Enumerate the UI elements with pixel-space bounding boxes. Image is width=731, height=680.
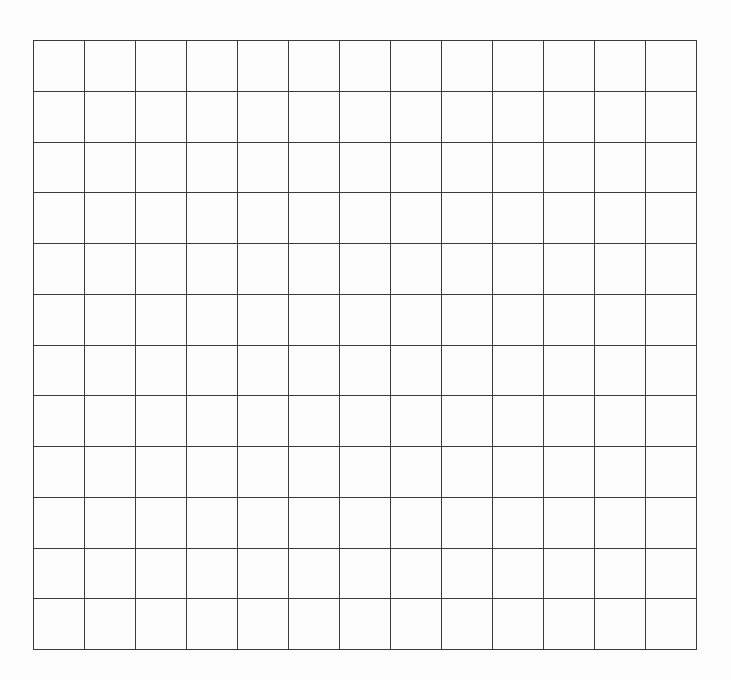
grid-cell <box>340 142 391 193</box>
grid-cell <box>187 193 238 244</box>
grid-cell <box>544 244 595 295</box>
grid-cell <box>391 396 442 447</box>
grid-cell <box>340 396 391 447</box>
grid-cell <box>493 447 544 498</box>
grid-cell <box>493 142 544 193</box>
grid-cell <box>289 193 340 244</box>
grid-cell <box>136 244 187 295</box>
grid-cell <box>442 599 493 650</box>
grid-body <box>34 41 697 650</box>
grid-cell <box>34 345 85 396</box>
grid-cell <box>442 193 493 244</box>
grid-cell <box>646 497 697 548</box>
grid-cell <box>289 142 340 193</box>
grid-cell <box>136 497 187 548</box>
grid-cell <box>493 497 544 548</box>
grid-cell <box>646 599 697 650</box>
grid-cell <box>442 91 493 142</box>
grid-cell <box>493 396 544 447</box>
grid-cell <box>289 599 340 650</box>
grid-cell <box>136 345 187 396</box>
grid-cell <box>544 294 595 345</box>
grid-row <box>34 396 697 447</box>
grid-cell <box>34 599 85 650</box>
grid-cell <box>289 548 340 599</box>
grid-cell <box>595 447 646 498</box>
grid-cell <box>136 447 187 498</box>
grid-cell <box>238 345 289 396</box>
grid-cell <box>493 294 544 345</box>
grid-cell <box>391 345 442 396</box>
grid-cell <box>595 599 646 650</box>
grid-cell <box>187 497 238 548</box>
grid-cell <box>34 91 85 142</box>
grid-cell <box>289 91 340 142</box>
grid-cell <box>340 548 391 599</box>
grid-cell <box>289 447 340 498</box>
grid-cell <box>238 599 289 650</box>
grid-cell <box>595 497 646 548</box>
grid-cell <box>544 447 595 498</box>
grid-cell <box>34 41 85 92</box>
grid-cell <box>391 548 442 599</box>
grid-cell <box>187 142 238 193</box>
grid-cell <box>340 244 391 295</box>
grid-cell <box>187 91 238 142</box>
grid-cell <box>595 548 646 599</box>
grid-cell <box>136 548 187 599</box>
grid-cell <box>544 396 595 447</box>
grid-cell <box>340 91 391 142</box>
grid-cell <box>442 497 493 548</box>
grid-cell <box>646 142 697 193</box>
grid-cell <box>595 396 646 447</box>
grid-cell <box>238 497 289 548</box>
grid-cell <box>34 193 85 244</box>
grid-cell <box>187 244 238 295</box>
grid-cell <box>34 142 85 193</box>
grid-cell <box>136 91 187 142</box>
grid-cell <box>85 548 136 599</box>
grid-cell <box>34 396 85 447</box>
grid-cell <box>442 41 493 92</box>
grid-cell <box>34 244 85 295</box>
grid-cell <box>187 294 238 345</box>
grid-cell <box>85 497 136 548</box>
grid-cell <box>493 91 544 142</box>
grid-cell <box>442 142 493 193</box>
grid-cell <box>238 294 289 345</box>
grid-row <box>34 142 697 193</box>
grid-cell <box>136 396 187 447</box>
grid-cell <box>85 345 136 396</box>
grid-cell <box>238 41 289 92</box>
grid-cell <box>136 193 187 244</box>
grid-cell <box>136 41 187 92</box>
grid-cell <box>442 244 493 295</box>
grid-cell <box>187 447 238 498</box>
grid-cell <box>595 193 646 244</box>
grid-cell <box>238 91 289 142</box>
grid-cell <box>544 193 595 244</box>
grid-cell <box>289 244 340 295</box>
grid-cell <box>187 345 238 396</box>
grid-cell <box>187 396 238 447</box>
grid-cell <box>544 91 595 142</box>
grid-cell <box>391 447 442 498</box>
grid-cell <box>391 193 442 244</box>
grid-cell <box>340 447 391 498</box>
grid-cell <box>595 294 646 345</box>
grid-cell <box>187 599 238 650</box>
blank-grid-table <box>33 40 697 650</box>
grid-row <box>34 91 697 142</box>
grid-cell <box>136 294 187 345</box>
grid-cell <box>391 244 442 295</box>
grid-cell <box>340 599 391 650</box>
grid-row <box>34 497 697 548</box>
grid-row <box>34 294 697 345</box>
grid-row <box>34 447 697 498</box>
grid-cell <box>340 193 391 244</box>
grid-cell <box>493 244 544 295</box>
grid-cell <box>85 294 136 345</box>
grid-cell <box>85 244 136 295</box>
grid-cell <box>391 91 442 142</box>
grid-cell <box>646 345 697 396</box>
